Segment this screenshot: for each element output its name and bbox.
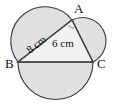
side-length-label-AC: 6 cm bbox=[52, 37, 74, 49]
vertex-label-B: B bbox=[5, 56, 14, 71]
vertex-label-A: A bbox=[74, 1, 84, 16]
geometry-figure: A B C 8 cm 6 cm bbox=[0, 0, 115, 112]
geometry-diagram-svg: A B C 8 cm 6 cm bbox=[0, 0, 115, 112]
semicircle-on-BC bbox=[18, 62, 93, 100]
vertex-label-C: C bbox=[97, 56, 106, 71]
